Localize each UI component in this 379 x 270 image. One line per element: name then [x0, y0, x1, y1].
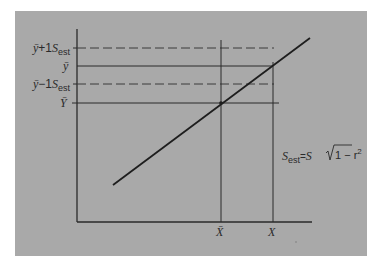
svg-text:Sest=S: Sest=S: [282, 149, 312, 165]
label-y-hat: ȳ: [62, 59, 69, 73]
speck: [295, 241, 297, 243]
formula-sest: Sest=S 1 − r2: [282, 145, 362, 165]
label-x: X: [267, 225, 276, 239]
label-y-hat-minus-sest: ȳ−1Sest: [32, 77, 71, 93]
svg-text:1 − r2: 1 − r2: [335, 147, 362, 161]
label-y-bar: Ȳ: [60, 96, 68, 110]
regression-diagram: ȳ+1Sest ȳ ȳ−1Sest Ȳ X̄ X Sest=S 1 − r2: [0, 0, 379, 270]
regression-line: [113, 38, 310, 185]
diagram-stage: ȳ+1Sest ȳ ȳ−1Sest Ȳ X̄ X Sest=S 1 − r2: [0, 0, 379, 270]
label-x-bar: X̄: [215, 225, 224, 239]
label-y-hat-plus-sest: ȳ+1Sest: [32, 41, 71, 57]
mean-point: [219, 101, 223, 105]
